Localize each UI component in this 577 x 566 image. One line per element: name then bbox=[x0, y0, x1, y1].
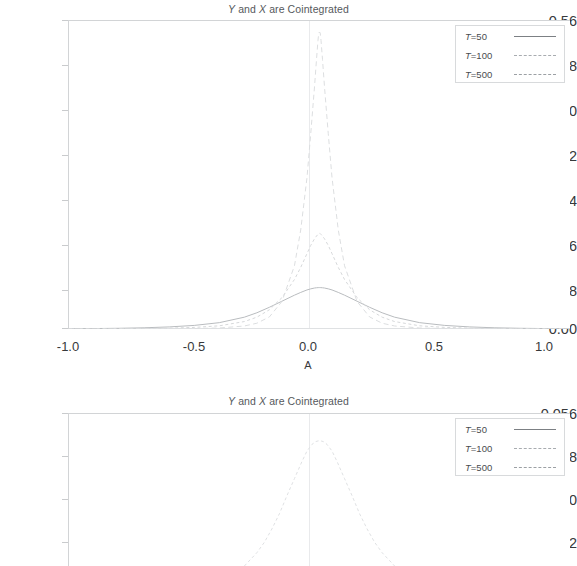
xtick-label: -1.0 bbox=[38, 340, 98, 353]
chart-title-bottom: Y and X are Cointegrated bbox=[0, 395, 577, 407]
chart-panel-bottom: Y and X are Cointegrated 0.056 0.048 0.0… bbox=[0, 385, 577, 566]
legend-label-t100: T=100 bbox=[465, 443, 492, 454]
legend-swatch-dashed-icon bbox=[514, 74, 556, 75]
legend-row-t100[interactable]: T=100 bbox=[456, 46, 564, 65]
xtick-label: -0.5 bbox=[164, 340, 224, 353]
legend-swatch-dotted-icon bbox=[514, 55, 556, 56]
curve-t100 bbox=[244, 441, 394, 566]
legend-label-t100: T=100 bbox=[465, 50, 492, 61]
chart-title-and: and bbox=[235, 395, 259, 407]
legend-swatch-solid-icon bbox=[514, 429, 556, 430]
legend-row-t500[interactable]: T=500 bbox=[456, 65, 564, 84]
legend-label-t50: T=50 bbox=[465, 31, 487, 42]
curve-t50 bbox=[69, 288, 570, 329]
xtick-label: 0.0 bbox=[278, 340, 338, 353]
legend-row-t50[interactable]: T=50 bbox=[456, 420, 564, 439]
xaxis-title-top: A bbox=[278, 359, 338, 371]
legend-row-t50[interactable]: T=50 bbox=[456, 27, 564, 46]
xtick-label: 1.0 bbox=[514, 340, 574, 353]
legend-swatch-solid-icon bbox=[514, 36, 556, 37]
chart-title-rest: are Cointegrated bbox=[266, 395, 349, 407]
xtick-label: 0.5 bbox=[404, 340, 464, 353]
legend-row-t500[interactable]: T=500 bbox=[456, 458, 564, 477]
chart-panel-top: Y and X are Cointegrated 0.56 0.48 0.40 … bbox=[0, 0, 577, 385]
legend-label-t500: T=500 bbox=[465, 462, 492, 473]
legend-bottom: T=50 T=100 T=500 bbox=[455, 418, 565, 476]
legend-label-t50: T=50 bbox=[465, 424, 487, 435]
curve-t100 bbox=[69, 233, 570, 329]
legend-top: T=50 T=100 T=500 bbox=[455, 25, 565, 83]
legend-label-t500: T=500 bbox=[465, 69, 492, 80]
chart-title-rest: are Cointegrated bbox=[266, 3, 349, 15]
chart-title-and: and bbox=[235, 3, 259, 15]
legend-row-t100[interactable]: T=100 bbox=[456, 439, 564, 458]
legend-swatch-dotted-icon bbox=[514, 448, 556, 449]
legend-swatch-dashed-icon bbox=[514, 467, 556, 468]
chart-title-top: Y and X are Cointegrated bbox=[0, 3, 577, 15]
